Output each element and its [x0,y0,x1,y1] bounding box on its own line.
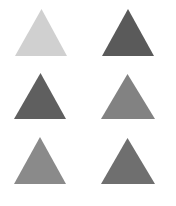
triangle-grid [0,0,176,206]
